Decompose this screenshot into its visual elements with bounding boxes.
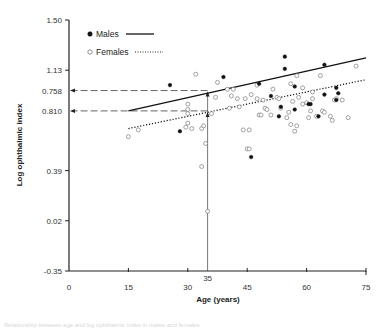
female-data-point [200, 165, 204, 169]
legend: MalesFemales [88, 29, 163, 57]
x-tick-label: 60 [302, 283, 311, 292]
male-data-point [293, 85, 297, 89]
x-tick-label: 0 [67, 283, 72, 292]
legend-label: Females [96, 47, 129, 57]
female-data-point [289, 122, 293, 126]
female-data-point [287, 110, 291, 114]
female-data-point [330, 118, 334, 122]
female-data-point [225, 87, 229, 91]
female-data-point [194, 72, 198, 76]
figure-caption: Relationship between age and log ophthal… [4, 322, 382, 328]
male-data-point [283, 67, 287, 71]
arrowhead-icon [70, 89, 75, 93]
female-data-point [311, 97, 315, 101]
female-data-point [186, 121, 190, 125]
female-data-point [318, 74, 322, 78]
female-data-point [237, 105, 241, 109]
female-data-point [136, 128, 140, 132]
female-data-point [322, 110, 326, 114]
male-data-point [277, 115, 281, 119]
y-tick-label: 0.758 [42, 87, 63, 96]
female-data-point [235, 97, 239, 101]
male-data-point [257, 82, 261, 86]
data-points [126, 55, 358, 213]
female-data-point [186, 108, 190, 112]
x-tick-label: 15 [124, 283, 133, 292]
female-data-point [311, 90, 315, 94]
female-data-point [255, 97, 259, 101]
female-data-point [271, 87, 275, 91]
female-data-point [295, 124, 299, 128]
female-data-point [328, 114, 332, 118]
male-data-point [249, 155, 253, 159]
female-data-point [229, 94, 233, 98]
female-data-point [186, 112, 190, 116]
female-data-point [247, 147, 251, 151]
female-data-point [265, 108, 269, 112]
female-data-point [297, 95, 301, 99]
y-tick-label: -0.35 [44, 267, 63, 276]
y-tick-label: 0.39 [46, 167, 62, 176]
y-tick-label: 1.13 [46, 66, 62, 75]
male-data-point [309, 102, 313, 106]
female-data-point [204, 141, 208, 145]
female-data-point [243, 97, 247, 101]
female-data-point [126, 135, 130, 139]
female-data-point [289, 82, 293, 86]
male-data-point [283, 55, 287, 59]
y-tick-label: 0.02 [46, 217, 62, 226]
x-tick-label: 35 [203, 274, 212, 283]
female-data-point [190, 127, 194, 131]
y-tick-label: 0.810 [42, 107, 63, 116]
male-data-point [317, 115, 321, 119]
female-data-point [301, 86, 305, 90]
scatter-chart: 1.501.130.7580.8100.390.02-0.35015303545… [0, 0, 385, 332]
female-data-point [307, 116, 311, 120]
female-data-point [214, 95, 218, 99]
male-data-point [269, 94, 273, 98]
female-data-point [346, 116, 350, 120]
female-data-point [261, 98, 265, 102]
male-data-point [293, 108, 297, 112]
female-data-point [301, 102, 305, 106]
x-tick-label: 75 [362, 283, 371, 292]
legend-filled-marker-icon [88, 32, 92, 36]
axes: 1.501.130.7580.8100.390.02-0.35015303545… [42, 16, 371, 292]
female-data-point [277, 97, 281, 101]
female-data-point [184, 125, 188, 129]
reference-lines [70, 89, 210, 271]
female-data-point [269, 113, 273, 117]
x-tick-label: 45 [243, 283, 252, 292]
female-data-point [206, 209, 210, 213]
male-data-point [323, 63, 327, 67]
female-data-point [249, 93, 253, 97]
female-data-point [231, 87, 235, 91]
x-tick-label: 30 [183, 283, 192, 292]
female-data-point [259, 113, 263, 117]
female-data-point [291, 99, 295, 103]
female-data-point [216, 80, 220, 84]
female-data-point [354, 64, 358, 68]
female-data-point [210, 112, 214, 116]
male-data-point [335, 98, 339, 102]
male-data-point [323, 93, 327, 97]
legend-label: Males [96, 29, 119, 39]
female-data-point [227, 106, 231, 110]
legend-open-marker-icon [88, 50, 92, 54]
female-data-point [295, 74, 299, 78]
arrowhead-icon [206, 112, 210, 117]
male-data-point [279, 105, 283, 109]
male-regression-line [128, 58, 366, 111]
female-data-point [202, 124, 206, 128]
female-data-point [293, 129, 297, 133]
male-data-point [336, 91, 340, 95]
male-data-point [335, 86, 339, 90]
male-data-point [222, 75, 226, 79]
female-data-point [247, 128, 251, 132]
female-data-point [186, 102, 190, 106]
y-axis-title: Log ophthalmic index [15, 103, 24, 186]
female-data-point [340, 98, 344, 102]
y-tick-label: 1.50 [46, 16, 62, 25]
male-data-point [178, 129, 182, 133]
arrowhead-icon [70, 109, 75, 113]
